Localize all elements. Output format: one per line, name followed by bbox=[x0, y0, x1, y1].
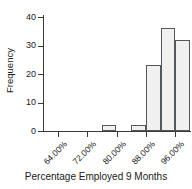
histogram-chart: 010203040 Frequency 64.00%72.00%80.00%88… bbox=[0, 0, 192, 189]
y-axis-tick-label: 0 bbox=[2, 127, 36, 136]
histogram-bar bbox=[161, 28, 176, 131]
x-axis-tick bbox=[117, 132, 118, 137]
histogram-bar bbox=[175, 40, 190, 131]
histogram-bar bbox=[146, 65, 161, 131]
y-axis-tick bbox=[38, 131, 43, 132]
x-axis-tick bbox=[87, 132, 88, 137]
y-axis-title: Frequency bbox=[4, 23, 15, 119]
x-axis-tick bbox=[175, 132, 176, 137]
plot-area bbox=[43, 17, 190, 131]
y-axis-tick-label: 40 bbox=[2, 13, 36, 22]
histogram-bar bbox=[131, 125, 146, 131]
x-axis-title: Percentage Employed 9 Months bbox=[0, 171, 192, 182]
x-axis-tick bbox=[58, 132, 59, 137]
histogram-bar bbox=[102, 125, 117, 131]
x-axis-tick bbox=[146, 132, 147, 137]
